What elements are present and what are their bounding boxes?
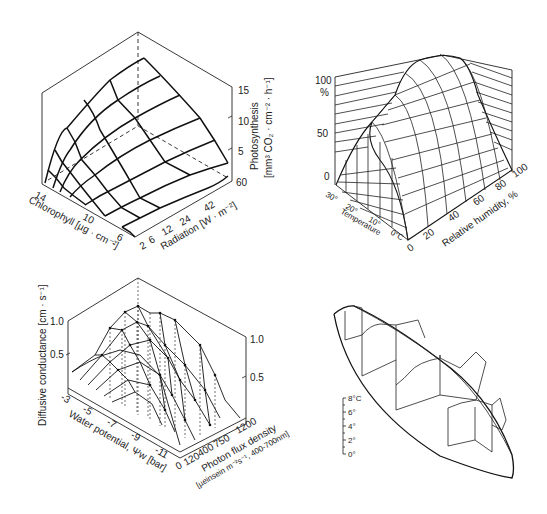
ttick-0: 0°C	[389, 228, 405, 243]
ztick-left-1.0: 1.0	[50, 316, 64, 327]
chart-relative-humidity: 100 % 50 0 30° 20° 10° 0°C Temperature 0…	[315, 54, 530, 254]
rhtick-80: 80	[493, 177, 509, 193]
wtick--3: -3	[59, 391, 73, 405]
chart-photosynthesis: 15 10 5 60 Photosynthesis [mm³ CO₂ · cm⁻…	[27, 32, 274, 252]
scale-8c: 8°C	[348, 394, 362, 403]
scale-0: 0°	[348, 450, 356, 459]
ztick-right-0.5: 0.5	[250, 372, 264, 383]
ztick-10: 10	[238, 116, 250, 127]
ytick-6: 6	[147, 233, 158, 246]
ztick	[228, 116, 232, 118]
surface-mesh	[45, 58, 228, 237]
scale-2: 2°	[348, 436, 356, 445]
back-wall-hatching	[335, 63, 512, 152]
ztick-100: 100	[315, 75, 332, 86]
scale-6: 6°	[348, 408, 356, 417]
ytick-2: 2	[138, 239, 149, 252]
ztick	[242, 376, 246, 378]
ztick-50: 50	[317, 128, 329, 139]
ztick-15: 15	[238, 85, 250, 96]
rhtick-0: 0	[405, 241, 416, 253]
figure-canvas: 15 10 5 60 Photosynthesis [mm³ CO₂ · cm⁻…	[0, 0, 547, 514]
temperature-scale: 8°C 6° 4° 2° 0°	[343, 394, 362, 459]
chart-leaf-profile: 8°C 6° 4° 2° 0°	[334, 306, 514, 478]
scale-4: 4°	[348, 422, 356, 431]
rhtick-20: 20	[421, 226, 437, 242]
rhtick-40: 40	[446, 208, 462, 224]
ttick-30: 30°	[324, 190, 339, 204]
temperature-sections	[345, 306, 506, 452]
data-points	[101, 305, 217, 427]
rhtick-100: 100	[510, 161, 530, 180]
rhtick-60: 60	[471, 192, 487, 208]
ztick-right-1.0: 1.0	[250, 334, 264, 345]
ztick	[228, 148, 232, 150]
back-frame	[68, 278, 246, 337]
ztick-5: 5	[238, 146, 244, 157]
ztick-left-0.5: 0.5	[50, 349, 64, 360]
ztick-60: 60	[236, 177, 248, 188]
leaf-outline	[334, 306, 514, 478]
ztick-percent: %	[320, 87, 329, 98]
xlabel-water-potential: Water potential, Ψw [bar]	[67, 408, 169, 473]
chart-diffusive-conductance: 1.0 0.5 1.0 0.5 Diffusive conductance [c…	[37, 278, 290, 490]
ztick-0: 0	[324, 171, 330, 182]
zlabel-units: [mm³ CO₂ · cm⁻² · h⁻¹]	[263, 77, 274, 178]
zlabel-conductance: Diffusive conductance [cm · s⁻¹]	[37, 284, 48, 426]
leaf-midrib	[354, 306, 512, 455]
dropline-verticals	[110, 306, 215, 438]
zlabel-photosynthesis: Photosynthesis	[249, 102, 260, 170]
